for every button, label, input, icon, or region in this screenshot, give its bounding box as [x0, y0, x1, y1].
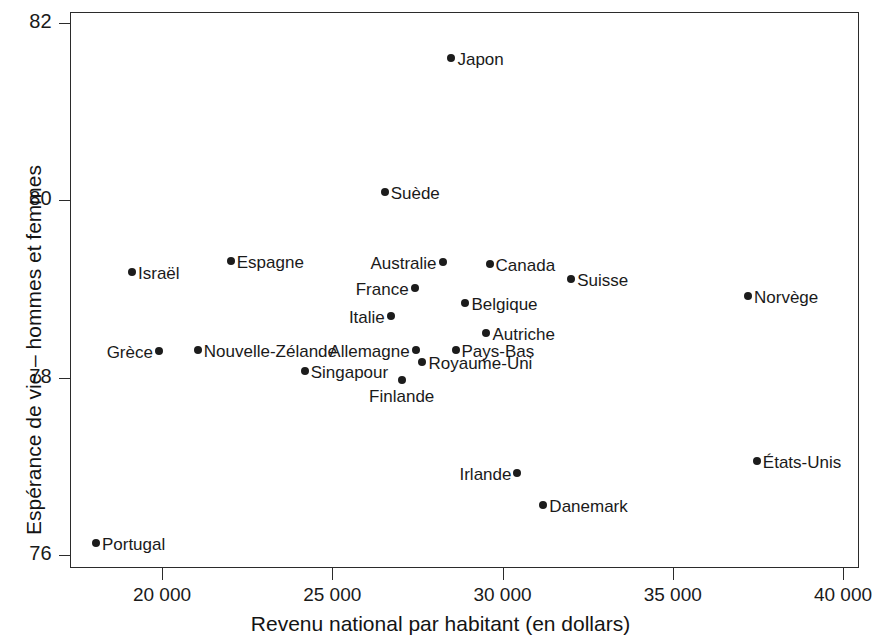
scatter-chart: 82807876 20 00025 00030 00035 00040 000 …	[0, 0, 881, 640]
x-tick-mark	[503, 568, 504, 580]
data-point	[387, 312, 395, 320]
data-point-label: Grèce	[107, 344, 153, 361]
data-point-label: Autriche	[492, 326, 554, 343]
data-point-label: Allemagne	[329, 343, 409, 360]
data-point	[398, 376, 406, 384]
x-tick-label: 30 000	[443, 584, 563, 606]
data-point	[486, 260, 494, 268]
x-tick-label: 40 000	[783, 584, 881, 606]
x-tick-mark	[332, 568, 333, 580]
y-tick-label: 76	[0, 542, 52, 565]
x-tick-label: 20 000	[102, 584, 222, 606]
data-point-label: Irlande	[459, 466, 511, 483]
x-tick-mark	[843, 568, 844, 580]
x-tick-label: 35 000	[613, 584, 733, 606]
data-point-label: Suède	[391, 185, 440, 202]
plot-area	[70, 12, 859, 568]
y-tick-mark	[59, 23, 70, 24]
y-tick-mark	[59, 200, 70, 201]
data-point-label: Canada	[496, 257, 556, 274]
x-tick-label: 25 000	[272, 584, 392, 606]
data-point	[439, 258, 447, 266]
y-tick-label: 82	[0, 10, 52, 33]
data-point	[412, 346, 420, 354]
data-point-label: Singapour	[311, 364, 389, 381]
data-point	[753, 457, 761, 465]
y-tick-mark	[59, 378, 70, 379]
data-point-label: Israël	[138, 265, 180, 282]
data-point	[155, 347, 163, 355]
data-point-label: Australie	[370, 254, 436, 271]
data-point	[411, 284, 419, 292]
x-axis-title: Revenu national par habitant (en dollars…	[0, 612, 881, 636]
data-point-label: Nouvelle-Zélande	[204, 343, 337, 360]
data-point-label: Italie	[349, 308, 385, 325]
data-point-label: Royaume-Uni	[428, 354, 532, 371]
data-point-label: Belgique	[471, 296, 537, 313]
data-point-label: Norvège	[754, 289, 818, 306]
data-point-label: Japon	[457, 51, 503, 68]
data-point-label: Finlande	[369, 388, 434, 405]
data-point-label: Portugal	[102, 536, 165, 553]
data-point	[227, 257, 235, 265]
data-point-label: France	[356, 281, 409, 298]
data-point	[194, 346, 202, 354]
x-tick-mark	[162, 568, 163, 580]
data-point-label: États-Unis	[763, 454, 841, 471]
y-axis-title: Espérance de vie – hommes et femmes	[22, 165, 46, 535]
y-tick-mark	[59, 555, 70, 556]
data-point	[381, 188, 389, 196]
data-point-label: Espagne	[237, 253, 304, 270]
x-tick-mark	[673, 568, 674, 580]
data-point-label: Suisse	[577, 272, 628, 289]
data-point-label: Danemark	[549, 498, 627, 515]
